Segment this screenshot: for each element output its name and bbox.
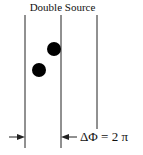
arrow-left-icon: [61, 134, 77, 140]
source-dot-1: [47, 42, 61, 56]
source-dot-2: [32, 63, 46, 77]
arrow-right-icon: [9, 134, 25, 140]
phase-difference-label: ΔΦ = 2 π: [80, 129, 128, 145]
